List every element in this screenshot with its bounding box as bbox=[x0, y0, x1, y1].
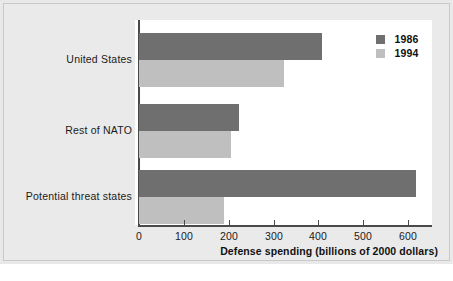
y-axis-tick-label: Potential threat states bbox=[8, 190, 132, 202]
legend-label-1994: 1994 bbox=[394, 47, 418, 59]
x-axis-title: Defense spending (billions of 2000 dolla… bbox=[4, 245, 438, 257]
y-axis-tick-label: United States bbox=[8, 53, 132, 65]
x-axis-tick-label: 100 bbox=[175, 230, 193, 242]
x-axis-tick-label: 0 bbox=[136, 230, 142, 242]
legend-swatch-1986 bbox=[376, 35, 385, 44]
x-axis-tick bbox=[318, 220, 319, 226]
bar bbox=[139, 60, 284, 87]
bar bbox=[139, 131, 231, 158]
bar bbox=[139, 33, 322, 60]
legend-swatch-1994 bbox=[376, 49, 385, 58]
legend-item-1994: 1994 bbox=[376, 45, 432, 59]
x-axis-tick bbox=[229, 220, 230, 226]
x-axis-tick bbox=[363, 220, 364, 226]
bar bbox=[139, 197, 224, 224]
x-axis-tick-label: 400 bbox=[309, 230, 327, 242]
x-axis-tick-label: 600 bbox=[399, 230, 417, 242]
figure-panel: United StatesRest of NATOPotential threa… bbox=[0, 0, 453, 264]
legend-label-1986: 1986 bbox=[394, 33, 418, 45]
x-axis-tick-label: 200 bbox=[220, 230, 238, 242]
y-axis-tick-label: Rest of NATO bbox=[8, 124, 132, 136]
y-axis-tick-labels: United StatesRest of NATOPotential threa… bbox=[4, 4, 132, 268]
x-axis-tick bbox=[408, 220, 409, 226]
x-axis-tick-label: 300 bbox=[265, 230, 283, 242]
x-axis-tick bbox=[274, 220, 275, 226]
figure-border: United StatesRest of NATOPotential threa… bbox=[3, 3, 450, 261]
legend: 1986 1994 bbox=[376, 31, 432, 59]
x-axis-line bbox=[138, 225, 432, 227]
legend-item-1986: 1986 bbox=[376, 31, 432, 45]
bar bbox=[139, 170, 416, 197]
x-axis-tick bbox=[184, 220, 185, 226]
x-axis-tick-label: 500 bbox=[354, 230, 372, 242]
bar bbox=[139, 104, 239, 131]
